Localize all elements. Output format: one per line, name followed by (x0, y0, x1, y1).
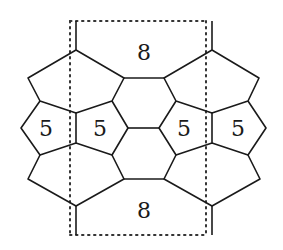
face-label-bottom-octagon: 8 (137, 198, 151, 223)
face-label-pentagon-1: 5 (39, 116, 53, 141)
face-label-top-octagon: 8 (137, 40, 151, 65)
face-label-pentagon-4: 5 (231, 116, 245, 141)
face-label-pentagon-2: 5 (93, 116, 107, 141)
fullerene-patch-diagram: 8 8 5 5 5 5 (0, 0, 283, 250)
face-label-pentagon-3: 5 (177, 116, 191, 141)
